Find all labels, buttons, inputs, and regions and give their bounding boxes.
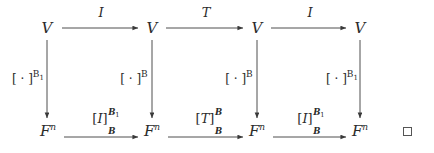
node-v-top-3-label: V: [252, 19, 263, 37]
qed-square-icon: [403, 127, 412, 136]
node-v-top-3: V: [252, 21, 263, 36]
node-fn-bot-4-base: F: [352, 122, 362, 140]
vert-arrow-2-sup: B: [141, 69, 148, 79]
bottom-arrow-1-label: [I]B1B: [92, 112, 107, 125]
vert-arrow-4-sup-sub: 1: [353, 73, 357, 82]
vert-arrow-1-label: [ · ]B1: [12, 71, 44, 85]
bottom-arrow-3-sup: B: [313, 106, 320, 116]
vert-arrow-2-bracket: [ · ]: [120, 72, 141, 86]
bottom-arrow-3-sup-sub: 1: [320, 111, 324, 119]
node-v-top-2: V: [147, 21, 158, 36]
commutative-diagram: V V V V Fn Fn Fn Fn I T I [ · ]B1 [ · ]B…: [0, 0, 434, 153]
vert-arrow-3-sup: B: [246, 69, 253, 79]
vert-arrow-3-label: [ · ]B: [225, 71, 252, 85]
vert-arrow-3-bracket: [ · ]: [225, 72, 246, 86]
top-arrow-1-label: I: [98, 6, 103, 19]
bottom-arrow-2-label: [T]BB: [196, 112, 215, 125]
node-fn-bot-2: Fn: [144, 123, 160, 139]
top-arrow-1-label-text: I: [98, 5, 103, 20]
bottom-arrow-1-sup: B: [108, 106, 115, 116]
bottom-arrow-2-map: T: [201, 111, 210, 126]
vert-arrow-1-sup-sub: 1: [39, 73, 43, 82]
bottom-arrow-1-sup-sub: 1: [115, 111, 119, 119]
node-fn-bot-3: Fn: [249, 123, 265, 139]
node-v-top-4: V: [355, 21, 366, 36]
node-fn-bot-1-sup: n: [50, 122, 56, 132]
bottom-arrow-3-sub: B: [313, 125, 320, 135]
node-fn-bot-4-sup: n: [362, 122, 368, 132]
top-arrow-2-label-text: T: [202, 5, 211, 20]
vert-arrow-1-bracket: [ · ]: [12, 72, 33, 86]
node-fn-bot-3-base: F: [249, 122, 259, 140]
node-fn-bot-2-base: F: [144, 122, 154, 140]
vert-arrow-2-label: [ · ]B: [120, 71, 147, 85]
node-fn-bot-1: Fn: [40, 123, 56, 139]
bottom-arrow-2-sub: B: [215, 125, 222, 135]
bottom-arrow-1-sub: B: [108, 125, 115, 135]
bottom-arrow-1-close: ]: [103, 111, 108, 126]
node-v-top-2-label: V: [147, 19, 158, 37]
node-fn-bot-4: Fn: [352, 123, 368, 139]
top-arrow-3-label-text: I: [307, 5, 312, 20]
top-arrow-3-label: I: [307, 6, 312, 19]
node-fn-bot-1-base: F: [40, 122, 50, 140]
node-v-top-1: V: [42, 21, 53, 36]
node-fn-bot-3-sup: n: [259, 122, 265, 132]
vert-arrow-4-bracket: [ · ]: [326, 72, 347, 86]
node-v-top-4-label: V: [355, 19, 366, 37]
bottom-arrow-3-close: ]: [308, 111, 313, 126]
bottom-arrow-2-sup: B: [215, 106, 222, 116]
node-v-top-1-label: V: [42, 19, 53, 37]
top-arrow-2-label: T: [202, 6, 211, 19]
vert-arrow-4-label: [ · ]B1: [326, 71, 358, 85]
bottom-arrow-3-label: [I]B1B: [297, 112, 312, 125]
node-fn-bot-2-sup: n: [154, 122, 160, 132]
